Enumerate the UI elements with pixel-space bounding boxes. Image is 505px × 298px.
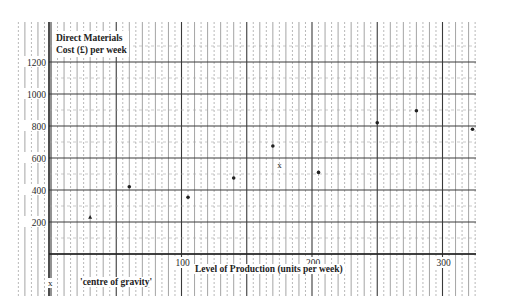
data-point (128, 185, 132, 189)
data-point (375, 121, 379, 125)
axes (49, 22, 476, 296)
y-tick-label: 1000 (27, 90, 46, 100)
data-point (88, 215, 92, 219)
centre-of-gravity-marker: x (277, 160, 282, 170)
x-axis-title: Level of Production (units per week) (193, 264, 345, 274)
y-axis-title-line1: Direct Materials (56, 32, 127, 44)
data-point (271, 144, 275, 148)
data-point (186, 195, 190, 199)
y-tick-label: 200 (32, 218, 47, 228)
x-tick-label: 100 (175, 258, 190, 268)
y-tick-label: 1200 (27, 58, 46, 68)
y-tick-label: 400 (32, 186, 47, 196)
y-axis-title: Direct Materials Cost (£) per week (54, 31, 129, 57)
y-tick-label: 800 (32, 122, 47, 132)
graph-paper-grid (18, 22, 476, 296)
data-point (232, 176, 236, 180)
data-point (317, 171, 321, 175)
y-axis-tick-labels: 20040060080010001200 (22, 56, 47, 228)
data-point (415, 109, 419, 113)
x-tick-label: 300 (436, 258, 451, 268)
centre-of-gravity-legend-marker: x (48, 278, 53, 288)
y-tick-label: 600 (32, 154, 47, 164)
data-point (471, 127, 475, 131)
centre-of-gravity-legend-label: 'centre of gravity' (78, 277, 154, 287)
y-axis-title-line2: Cost (£) per week (56, 44, 127, 56)
